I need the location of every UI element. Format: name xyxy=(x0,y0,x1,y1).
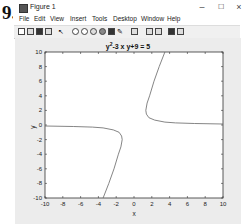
menu-bar: File Edit View Insert Tools Desktop Wind… xyxy=(13,14,249,24)
link-plot-icon[interactable] xyxy=(131,28,138,35)
matlab-figure-icon xyxy=(19,4,28,13)
y-tick-label: -4 xyxy=(37,151,43,157)
zoom-out-icon[interactable] xyxy=(81,28,88,35)
brush-icon[interactable]: ✎ xyxy=(117,28,124,35)
x-tick-label: -8 xyxy=(60,201,66,207)
y-tick-label: 4 xyxy=(39,93,43,99)
menu-view[interactable]: View xyxy=(50,15,64,22)
y-tick-label: 6 xyxy=(39,78,43,84)
x-tick-label: 8 xyxy=(204,201,208,207)
colorbar-icon[interactable] xyxy=(146,28,153,35)
x-tick-label: 6 xyxy=(186,201,190,207)
menu-file[interactable]: File xyxy=(19,15,29,22)
data-cursor-icon[interactable] xyxy=(108,28,115,35)
x-tick-label: 2 xyxy=(150,201,154,207)
print-icon[interactable] xyxy=(45,28,52,35)
menu-edit[interactable]: Edit xyxy=(34,15,45,22)
open-file-icon[interactable] xyxy=(27,28,34,35)
y-tick-label: 8 xyxy=(39,64,43,70)
y-tick-label: 2 xyxy=(39,107,43,113)
menu-window[interactable]: Window xyxy=(141,15,164,22)
x-tick-label: -10 xyxy=(41,201,50,207)
edit-plot-arrow-icon[interactable]: ↖ xyxy=(58,28,65,35)
y-tick-label: 10 xyxy=(35,49,42,55)
y-tick-label: -8 xyxy=(37,180,43,186)
y-tick-label: -10 xyxy=(33,195,42,201)
x-tick-label: -2 xyxy=(114,201,120,207)
maximize-button[interactable]: ☐ xyxy=(214,3,228,11)
plot-axes[interactable]: -10-8-6-4-20246810-10-8-6-4-20246810 x y xyxy=(15,38,241,224)
y-tick-label: 0 xyxy=(39,122,43,128)
hide-plot-tools-icon[interactable] xyxy=(168,28,175,35)
close-button[interactable]: × xyxy=(232,2,246,12)
x-axis-label: x xyxy=(132,210,136,217)
menu-help[interactable]: Help xyxy=(167,15,180,22)
y-tick-label: -2 xyxy=(37,137,43,143)
rotate-3d-icon[interactable] xyxy=(99,28,106,35)
y-tick-label: -6 xyxy=(37,166,43,172)
show-plot-tools-icon[interactable] xyxy=(177,28,184,35)
y-axis-label: y xyxy=(29,125,37,129)
zoom-in-icon[interactable] xyxy=(72,28,79,35)
save-icon[interactable] xyxy=(36,28,43,35)
menu-tools[interactable]: Tools xyxy=(92,15,107,22)
figure-window: Figure 1 – ☐ × File Edit View Insert Too… xyxy=(13,0,249,224)
menu-desktop[interactable]: Desktop xyxy=(113,15,137,22)
x-tick-label: 10 xyxy=(220,201,227,207)
pan-icon[interactable] xyxy=(90,28,97,35)
x-tick-label: 4 xyxy=(168,201,172,207)
window-title: Figure 1 xyxy=(30,3,56,10)
new-figure-icon[interactable] xyxy=(18,28,25,35)
menu-insert[interactable]: Insert xyxy=(70,15,86,22)
legend-icon[interactable] xyxy=(155,28,162,35)
x-tick-label: -6 xyxy=(78,201,84,207)
x-tick-label: -4 xyxy=(96,201,102,207)
x-tick-label: 0 xyxy=(132,201,136,207)
minimize-button[interactable]: – xyxy=(195,2,209,12)
title-bar: Figure 1 – ☐ × xyxy=(13,0,249,14)
figure-canvas: y2-3 x y+9 = 5 -10-8-6-4-20246810-10-8-6… xyxy=(15,38,241,224)
figure-toolbar: ↖ ✎ xyxy=(14,25,240,39)
